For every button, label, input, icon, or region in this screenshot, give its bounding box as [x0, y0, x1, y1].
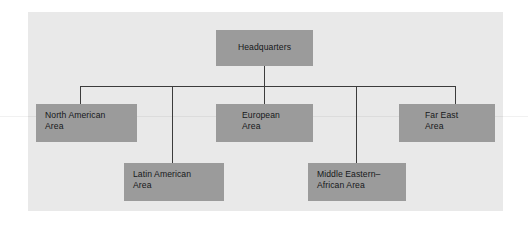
org-node-european-area: European Area: [216, 104, 313, 142]
org-chart-figure: Headquarters North American Area Latin A…: [0, 0, 528, 227]
org-node-headquarters-label: Headquarters: [238, 42, 291, 53]
org-node-headquarters: Headquarters: [216, 30, 313, 66]
org-node-far-east-area: Far East Area: [399, 104, 495, 142]
org-node-north-american-area: North American Area: [36, 104, 137, 142]
org-node-latin-american-area: Latin American Area: [124, 163, 224, 201]
org-node-middle-eastern-african-area: Middle Eastern– African Area: [308, 163, 406, 201]
